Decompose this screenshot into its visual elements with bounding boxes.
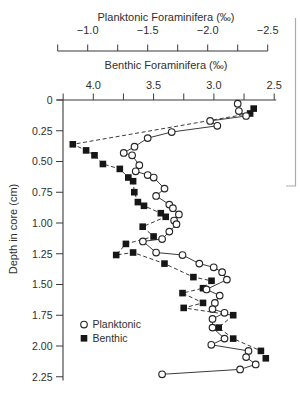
planktonic-data-point bbox=[208, 342, 215, 349]
benthic-data-point bbox=[200, 300, 207, 307]
benthic-tick-label: 4.0 bbox=[86, 79, 101, 91]
benthic-data-point bbox=[190, 274, 197, 281]
planktonic-tick-label: −2.0 bbox=[197, 24, 219, 36]
planktonic-data-point bbox=[173, 221, 180, 228]
benthic-data-point bbox=[215, 324, 222, 331]
benthic-data-point bbox=[123, 241, 130, 248]
planktonic-data-point bbox=[136, 162, 143, 169]
benthic-data-point bbox=[100, 161, 107, 168]
planktonic-data-point bbox=[209, 306, 216, 313]
depth-tick-label: 2.25 bbox=[32, 371, 53, 383]
depth-tick-label: 0.25 bbox=[32, 125, 53, 137]
depth-tick-label: 1.50 bbox=[32, 278, 53, 290]
benthic-data-point bbox=[161, 260, 168, 267]
planktonic-data-point bbox=[153, 193, 160, 200]
benthic-data-point bbox=[130, 249, 137, 256]
depth-axis-title: Depth in core (cm) bbox=[7, 184, 19, 274]
planktonic-data-point bbox=[245, 348, 252, 355]
planktonic-data-point bbox=[166, 228, 173, 235]
legend-benthic-marker-icon bbox=[81, 335, 88, 342]
benthic-tick-label: 2.5 bbox=[267, 79, 282, 91]
plot-area: −1.0−1.5−2.0−2.54.03.53.02.500.250.500.7… bbox=[32, 24, 282, 383]
planktonic-data-point bbox=[161, 185, 168, 192]
planktonic-data-point bbox=[243, 354, 250, 361]
planktonic-data-point bbox=[176, 211, 183, 218]
planktonic-data-point bbox=[129, 152, 136, 159]
benthic-tick-label: 3.0 bbox=[206, 79, 221, 91]
benthic-data-point bbox=[263, 355, 270, 362]
chart-canvas: Planktonic Foraminifera (‰) Benthic Fora… bbox=[0, 0, 300, 404]
benthic-data-point bbox=[230, 312, 237, 319]
planktonic-data-point bbox=[120, 150, 127, 157]
depth-tick-label: 0.75 bbox=[32, 186, 53, 198]
benthic-data-point bbox=[208, 278, 215, 285]
legend: Planktonic Benthic bbox=[81, 318, 141, 344]
depth-tick-label: 1.25 bbox=[32, 248, 53, 260]
planktonic-data-point bbox=[219, 269, 226, 276]
planktonic-data-point bbox=[237, 366, 244, 373]
planktonic-data-point bbox=[203, 286, 210, 293]
benthic-data-point bbox=[162, 214, 169, 221]
planktonic-data-point bbox=[209, 324, 216, 331]
benthic-data-point bbox=[135, 199, 142, 206]
benthic-tick-label: 3.5 bbox=[146, 79, 161, 91]
benthic-data-point bbox=[117, 166, 124, 173]
planktonic-data-point bbox=[224, 276, 231, 283]
planktonic-tick-label: −2.5 bbox=[257, 24, 279, 36]
planktonic-data-point bbox=[132, 168, 139, 175]
planktonic-data-point bbox=[168, 129, 175, 136]
planktonic-data-point bbox=[221, 310, 228, 317]
planktonic-data-point bbox=[252, 361, 259, 368]
benthic-data-point bbox=[179, 290, 186, 297]
planktonic-data-point bbox=[209, 316, 216, 323]
depth-tick-label: 1.75 bbox=[32, 309, 53, 321]
benthic-data-point bbox=[258, 348, 265, 355]
isotope-depth-profile-chart: Planktonic Foraminifera (‰) Benthic Fora… bbox=[0, 0, 300, 404]
benthic-data-point bbox=[230, 335, 237, 342]
depth-tick-label: 0 bbox=[47, 94, 53, 106]
planktonic-tick-label: −1.0 bbox=[77, 24, 99, 36]
planktonic-data-point bbox=[207, 118, 214, 125]
figure-edge-line bbox=[286, 18, 296, 186]
legend-benthic-label: Benthic bbox=[93, 332, 128, 344]
planktonic-data-point bbox=[210, 264, 217, 271]
planktonic-data-point bbox=[212, 300, 219, 307]
planktonic-data-point bbox=[214, 123, 221, 130]
benthic-data-point bbox=[141, 203, 148, 210]
planktonic-data-point bbox=[159, 236, 166, 243]
benthic-data-point bbox=[131, 189, 138, 196]
benthic-data-point bbox=[130, 178, 137, 185]
benthic-data-point bbox=[91, 152, 98, 159]
planktonic-data-point bbox=[140, 238, 147, 245]
benthic-data-point bbox=[150, 233, 157, 240]
legend-planktonic-label: Planktonic bbox=[93, 318, 141, 330]
depth-tick-label: 1.00 bbox=[32, 217, 53, 229]
planktonic-data-point bbox=[243, 113, 250, 120]
planktonic-data-point bbox=[179, 252, 186, 259]
planktonic-data-point bbox=[234, 100, 241, 107]
planktonic-data-point bbox=[144, 135, 151, 142]
benthic-data-point bbox=[139, 223, 146, 230]
benthic-data-point bbox=[70, 141, 77, 148]
planktonic-data-point bbox=[221, 335, 228, 342]
planktonic-data-point bbox=[236, 108, 243, 115]
benthic-data-point bbox=[113, 252, 120, 259]
benthic-data-point bbox=[180, 305, 187, 312]
planktonic-tick-label: −1.5 bbox=[137, 24, 159, 36]
benthic-axis-title: Benthic Foraminifera (‰) bbox=[105, 59, 228, 71]
benthic-data-point bbox=[83, 147, 90, 154]
planktonic-data-point bbox=[153, 249, 160, 256]
planktonic-data-point bbox=[170, 205, 177, 212]
depth-tick-label: 2.00 bbox=[32, 340, 53, 352]
planktonic-data-point bbox=[150, 174, 157, 181]
planktonic-data-point bbox=[131, 143, 138, 150]
planktonic-axis-title: Planktonic Foraminifera (‰) bbox=[98, 11, 235, 23]
depth-tick-label: 0.50 bbox=[32, 155, 53, 167]
planktonic-data-point bbox=[159, 371, 166, 378]
legend-planktonic-marker-icon bbox=[81, 321, 88, 328]
planktonic-data-point bbox=[216, 292, 223, 299]
planktonic-data-point bbox=[196, 260, 203, 267]
